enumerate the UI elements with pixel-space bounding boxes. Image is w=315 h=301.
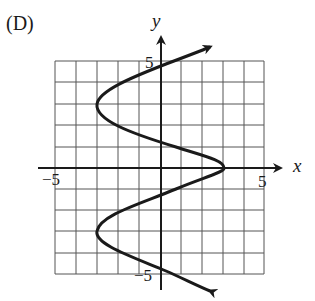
y-tick-5: 5 xyxy=(145,53,154,73)
x-tick-5: 5 xyxy=(258,172,267,192)
x-axis-label: x xyxy=(293,155,301,177)
y-tick-neg5: −5 xyxy=(134,266,152,286)
graph xyxy=(0,0,315,301)
y-axis-label: y xyxy=(152,10,160,32)
x-tick-neg5: −5 xyxy=(42,170,60,190)
